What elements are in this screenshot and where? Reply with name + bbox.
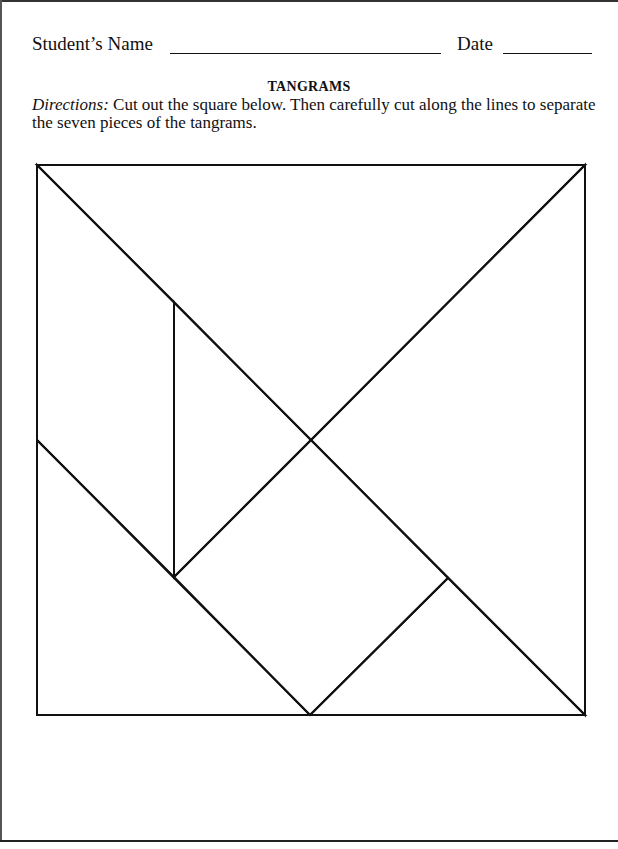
tangram-piece-square-center bbox=[174, 440, 448, 715]
tangram-piece-large-triangle-right bbox=[311, 165, 585, 715]
tangram-piece-small-triangle-center bbox=[174, 302, 311, 577]
tangram-square bbox=[0, 0, 618, 849]
tangram-piece-large-triangle-top bbox=[37, 165, 585, 440]
tangram-piece-small-triangle-bottom bbox=[310, 578, 585, 715]
tangram-piece-parallelogram-left bbox=[37, 165, 174, 577]
